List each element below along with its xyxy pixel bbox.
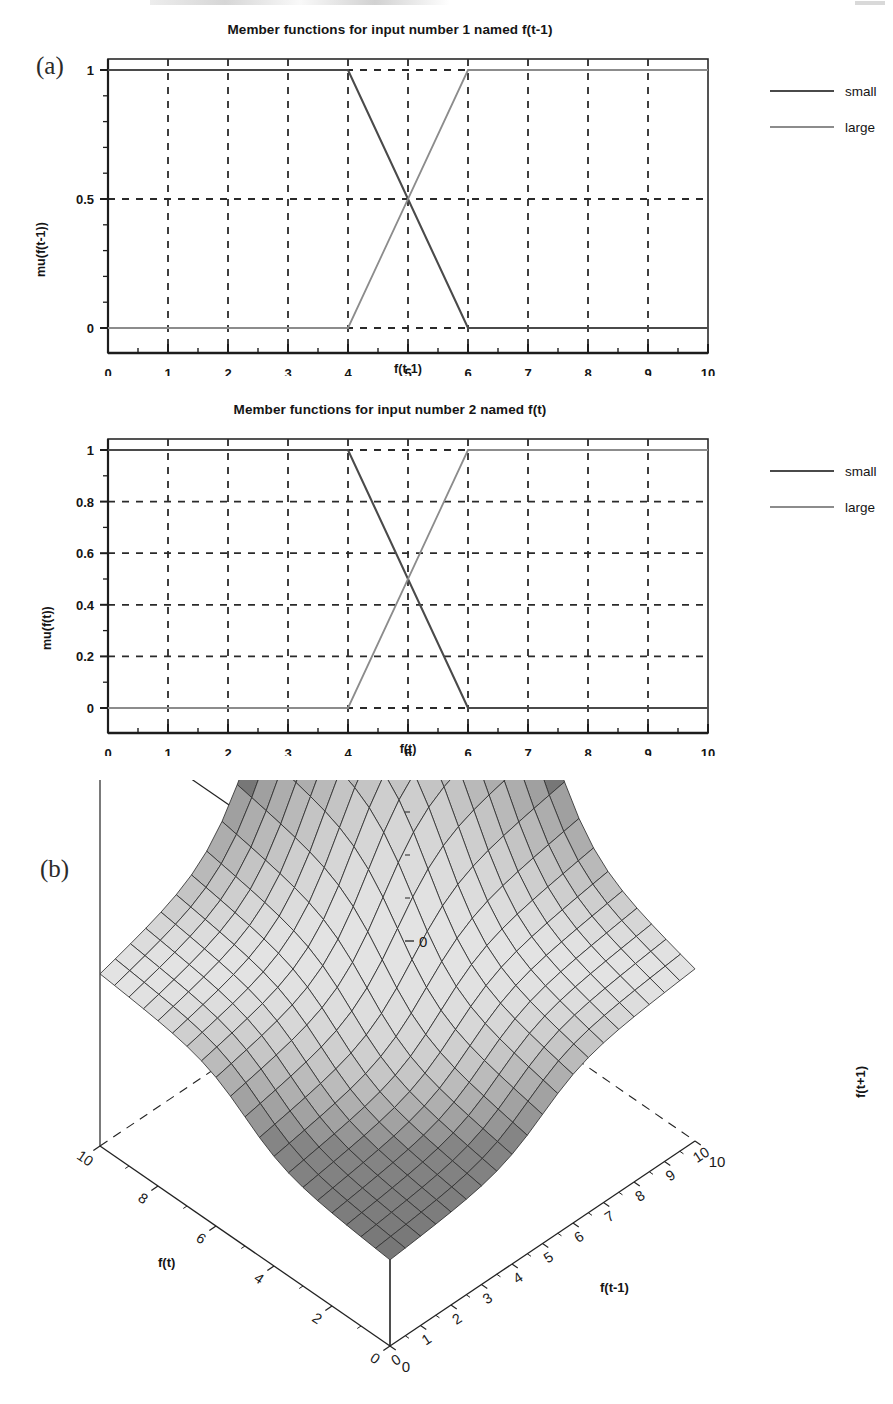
svg-text:0.4: 0.4 xyxy=(76,598,95,613)
svg-text:4: 4 xyxy=(251,1269,267,1287)
legend-label-large: large xyxy=(845,500,875,515)
surface-plot-panel: 012345678910024681001020100 f(t) f(t-1) … xyxy=(0,780,893,1404)
legend-swatch-small xyxy=(770,470,834,472)
legend-swatch-large xyxy=(770,126,834,128)
chart-1-svg: 01234567891000.51 xyxy=(60,46,740,376)
svg-text:0: 0 xyxy=(367,1349,383,1367)
chart-1-title: Member functions for input number 1 name… xyxy=(60,22,720,37)
chart-2-svg: 01234567891000.20.40.60.81 xyxy=(60,426,740,756)
svg-text:0: 0 xyxy=(402,1358,410,1375)
svg-text:7: 7 xyxy=(602,1207,617,1225)
svg-text:8: 8 xyxy=(632,1187,647,1205)
legend-label-small: small xyxy=(845,464,877,479)
chart-1-x-axis-label: f(t-1) xyxy=(108,362,708,376)
svg-text:4: 4 xyxy=(510,1269,525,1287)
scan-artifact-top xyxy=(150,0,450,5)
svg-text:0.2: 0.2 xyxy=(76,649,94,664)
scan-artifact-top-right xyxy=(855,1,885,5)
surface-z-axis-label: f(t+1) xyxy=(853,1066,868,1098)
svg-text:0: 0 xyxy=(419,933,427,950)
svg-text:2: 2 xyxy=(309,1309,325,1327)
svg-text:6: 6 xyxy=(571,1228,586,1246)
svg-text:6: 6 xyxy=(193,1229,209,1247)
membership-chart-2: Member functions for input number 2 name… xyxy=(0,402,893,772)
chart-2-legend: small large xyxy=(770,460,877,532)
svg-text:0.6: 0.6 xyxy=(76,546,94,561)
svg-text:1: 1 xyxy=(419,1330,434,1348)
svg-text:2: 2 xyxy=(449,1310,464,1328)
membership-chart-1: Member functions for input number 1 name… xyxy=(0,22,893,392)
svg-text:3: 3 xyxy=(480,1289,495,1307)
legend-item-small: small xyxy=(770,80,877,102)
svg-text:9: 9 xyxy=(663,1166,678,1184)
svg-text:0: 0 xyxy=(87,701,94,716)
legend-item-large: large xyxy=(770,496,877,518)
legend-label-large: large xyxy=(845,120,875,135)
surface-plot-svg: 012345678910024681001020100 xyxy=(0,780,893,1404)
svg-text:10: 10 xyxy=(74,1147,96,1169)
svg-text:10: 10 xyxy=(709,1153,726,1170)
svg-text:0.8: 0.8 xyxy=(76,495,94,510)
svg-text:0: 0 xyxy=(87,321,94,336)
legend-label-small: small xyxy=(845,84,877,99)
chart-1-legend: small large xyxy=(770,80,877,152)
surface-y-axis-label: f(t) xyxy=(158,1255,175,1270)
svg-text:1: 1 xyxy=(87,63,94,78)
legend-item-large: large xyxy=(770,116,877,138)
chart-2-y-axis-label: mu(f(t)) xyxy=(40,606,54,650)
surface-x-axis-label: f(t-1) xyxy=(600,1280,629,1295)
svg-text:0.5: 0.5 xyxy=(76,192,94,207)
chart-1-plot-area: 01234567891000.51 xyxy=(60,46,740,376)
legend-item-small: small xyxy=(770,460,877,482)
chart-1-y-axis-label: mu(f(t-1)) xyxy=(34,222,48,277)
svg-text:8: 8 xyxy=(135,1189,151,1207)
legend-swatch-small xyxy=(770,90,834,92)
chart-2-plot-area: 01234567891000.20.40.60.81 xyxy=(60,426,740,756)
chart-2-x-axis-label: f(t) xyxy=(108,742,708,756)
svg-text:1: 1 xyxy=(87,443,94,458)
legend-swatch-large xyxy=(770,506,834,508)
svg-text:5: 5 xyxy=(541,1248,556,1266)
chart-2-title: Member functions for input number 2 name… xyxy=(60,402,720,417)
